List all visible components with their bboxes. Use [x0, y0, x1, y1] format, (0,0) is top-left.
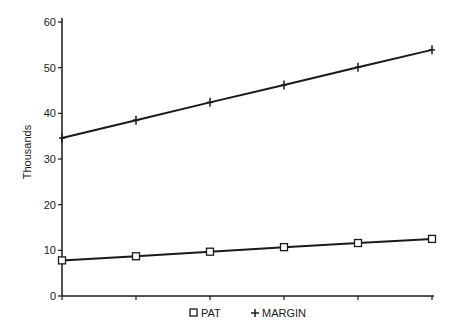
y-tick-label: 50 [44, 62, 56, 74]
line-chart: 0102030405060 Thousands PAT MARGIN [0, 0, 459, 333]
square-marker-icon [133, 253, 140, 260]
series-line [62, 50, 432, 138]
series-margin [59, 45, 435, 142]
y-tick-label: 20 [44, 199, 56, 211]
legend-item-margin: MARGIN [251, 307, 306, 319]
square-marker-icon [59, 257, 66, 264]
square-marker-icon [429, 235, 436, 242]
square-marker-icon [190, 309, 197, 316]
square-marker-icon [355, 240, 362, 247]
y-tick-label: 0 [50, 290, 56, 302]
plus-marker-icon [251, 309, 259, 317]
y-tick-label: 30 [44, 153, 56, 165]
legend-label-pat: PAT [201, 307, 221, 319]
square-marker-icon [207, 248, 214, 255]
legend: PAT MARGIN [190, 307, 306, 319]
legend-label-margin: MARGIN [262, 307, 306, 319]
y-tick-label: 10 [44, 244, 56, 256]
legend-item-pat: PAT [190, 307, 221, 319]
series-pat [59, 235, 436, 263]
x-axis [62, 296, 434, 300]
y-tick-label: 40 [44, 107, 56, 119]
y-tick-label: 60 [44, 16, 56, 28]
series-line [62, 239, 432, 260]
y-axis-title: Thousands [21, 124, 33, 179]
square-marker-icon [281, 244, 288, 251]
series-layer [59, 45, 436, 264]
